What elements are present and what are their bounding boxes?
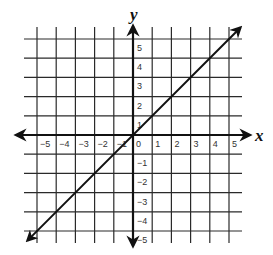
y-tick-label: −3 — [137, 197, 147, 207]
x-tick-label: 2 — [174, 139, 179, 149]
tick-labels: −5−4−3−2−101234554321−1−2−3−4−5 — [40, 43, 237, 245]
x-tick-label: 4 — [213, 139, 218, 149]
y-axis-label: y — [128, 5, 138, 24]
coordinate-plane: −5−4−3−2−101234554321−1−2−3−4−5 x y — [0, 0, 273, 255]
y-tick-label: 4 — [137, 62, 142, 72]
x-tick-label: 3 — [194, 139, 199, 149]
y-tick-label: −2 — [137, 177, 147, 187]
x-tick-label: 1 — [155, 139, 160, 149]
x-tick-label: −5 — [40, 139, 50, 149]
x-tick-label: −1 — [117, 139, 127, 149]
y-tick-label: −1 — [137, 158, 147, 168]
y-tick-label: −5 — [137, 235, 147, 245]
y-tick-label: 2 — [137, 101, 142, 111]
x-tick-label: −2 — [98, 139, 108, 149]
x-tick-label: 0 — [136, 139, 141, 149]
x-tick-label: −3 — [78, 139, 88, 149]
y-tick-label: 3 — [137, 81, 142, 91]
x-tick-label: −4 — [59, 139, 69, 149]
y-tick-label: 5 — [137, 43, 142, 53]
x-tick-label: 5 — [232, 139, 237, 149]
y-tick-label: −4 — [137, 216, 147, 226]
x-axis-label: x — [254, 126, 264, 145]
